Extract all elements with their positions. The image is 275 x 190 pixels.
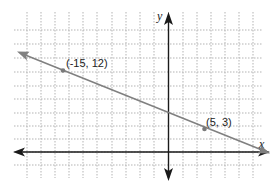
y-axis: y [156,9,173,181]
point-1: (-15, 12) [61,57,108,73]
point-2-label: (5, 3) [206,116,232,128]
y-axis-label: y [156,9,163,23]
point-1-label: (-15, 12) [66,57,108,69]
coordinate-plane: x y (-15, 12) (5, 3) [0,0,275,190]
point-2: (5, 3) [202,116,231,131]
grid [14,12,262,178]
x-axis: x [13,137,270,157]
